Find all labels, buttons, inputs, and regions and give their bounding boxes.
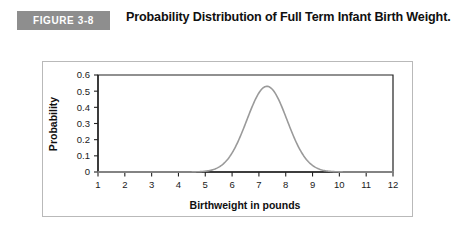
x-tick-label: 7	[256, 179, 261, 190]
x-tick-label: 1	[95, 179, 100, 190]
x-axis-ticks: 123456789101112	[95, 172, 398, 190]
x-tick-label: 10	[334, 179, 345, 190]
x-tick-label: 4	[176, 179, 181, 190]
x-tick-label: 5	[203, 179, 208, 190]
y-tick-label: 0.6	[77, 69, 90, 80]
y-axis-title: Probability	[47, 97, 59, 151]
x-tick-label: 11	[361, 179, 371, 190]
y-tick-label: 0.2	[77, 134, 90, 145]
figure-title: Probability Distribution of Full Term In…	[126, 10, 451, 24]
density-curve	[98, 86, 393, 172]
x-axis-title: Birthweight in pounds	[190, 199, 301, 211]
figure-number-badge: FIGURE 3-8	[17, 11, 110, 30]
x-tick-label: 12	[388, 179, 399, 190]
x-tick-label: 8	[283, 179, 288, 190]
x-tick-label: 9	[310, 179, 315, 190]
x-tick-label: 3	[149, 179, 154, 190]
probability-distribution-chart: 00.10.20.30.40.50.6 123456789101112 Prob…	[43, 62, 412, 216]
y-tick-label: 0.1	[77, 150, 90, 161]
y-tick-label: 0	[85, 166, 90, 177]
x-tick-label: 6	[229, 179, 234, 190]
x-tick-label: 2	[122, 179, 127, 190]
chart-container: 00.10.20.30.40.50.6 123456789101112 Prob…	[42, 61, 413, 217]
figure-header: FIGURE 3-8 Probability Distribution of F…	[0, 0, 443, 44]
y-tick-label: 0.4	[77, 102, 90, 113]
y-axis-ticks: 00.10.20.30.40.50.6	[77, 69, 98, 177]
y-tick-label: 0.5	[77, 86, 90, 97]
y-tick-label: 0.3	[77, 118, 90, 129]
